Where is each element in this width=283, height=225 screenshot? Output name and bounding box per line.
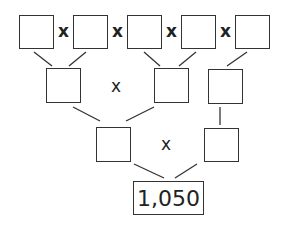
- factor-box-r1-2[interactable]: [73, 15, 108, 49]
- multiply-sign: x: [58, 23, 69, 40]
- factor-box-r1-4[interactable]: [181, 15, 216, 49]
- multiply-sign: x: [220, 23, 231, 40]
- multiply-sign: x: [161, 136, 171, 153]
- factor-box-r2-2[interactable]: [154, 68, 189, 103]
- factor-box-r2-3[interactable]: [208, 69, 243, 104]
- factor-box-r3-2[interactable]: [204, 128, 239, 162]
- factor-box-r3-1[interactable]: [96, 127, 131, 162]
- multiply-sign: x: [111, 78, 121, 95]
- factor-box-r1-1[interactable]: [19, 15, 54, 49]
- multiply-sign: x: [166, 23, 177, 40]
- factor-box-r2-1[interactable]: [46, 68, 81, 103]
- multiply-sign: x: [112, 23, 123, 40]
- factor-box-r1-5[interactable]: [235, 15, 270, 49]
- factor-box-r1-3[interactable]: [127, 15, 162, 49]
- result-box: 1,050: [133, 181, 204, 215]
